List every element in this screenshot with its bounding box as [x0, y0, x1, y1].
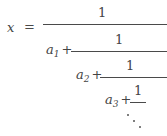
- denominator-operator-1: +: [60, 42, 73, 57]
- fraction-bar-level-4: [130, 102, 146, 103]
- variable-x: x: [7, 21, 14, 34]
- continued-fraction-figure: x = 1 a1+ 1 a2+ 1 a3+ 1: [0, 0, 167, 136]
- fraction-bar-level-3: [100, 77, 167, 78]
- denominator-base-1: a: [46, 42, 54, 57]
- ddots-dot-3: [139, 126, 141, 128]
- denominator-term-level-3: a3+: [105, 93, 131, 109]
- denominator-base-2: a: [76, 67, 84, 82]
- fraction-bar-level-1: [43, 24, 167, 25]
- denominator-subscript-2: 2: [84, 74, 90, 84]
- numerator-level-3: 1: [126, 59, 134, 72]
- ddots-icon: [127, 112, 145, 130]
- denominator-operator-3: +: [119, 92, 132, 107]
- numerator-level-1: 1: [98, 6, 106, 19]
- denominator-term-level-2: a2+: [76, 68, 102, 84]
- denominator-operator-2: +: [90, 67, 103, 82]
- denominator-base-3: a: [105, 92, 113, 107]
- denominator-term-level-1: a1+: [46, 43, 72, 59]
- ddots-dot-1: [127, 114, 129, 116]
- numerator-level-4: 1: [134, 84, 142, 97]
- numerator-level-2: 1: [115, 33, 123, 46]
- denominator-subscript-1: 1: [54, 49, 60, 59]
- denominator-subscript-3: 3: [113, 99, 119, 109]
- ddots-dot-2: [133, 120, 135, 122]
- equals-sign: =: [24, 20, 35, 33]
- fraction-bar-level-2: [71, 51, 167, 52]
